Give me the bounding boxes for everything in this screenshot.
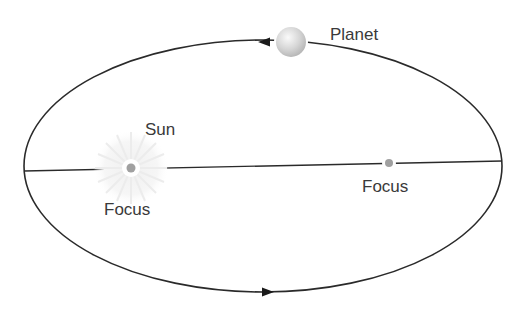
orbit-diagram: Planet Sun Focus Focus — [0, 0, 528, 312]
arrow-left-icon — [258, 38, 270, 47]
sun-focus-dot — [127, 164, 136, 173]
sun-focus-label: Focus — [104, 200, 150, 219]
empty-focus-label: Focus — [362, 177, 408, 196]
planet-icon — [276, 27, 306, 57]
planet-label: Planet — [330, 25, 378, 44]
arrow-right-icon — [262, 288, 274, 297]
sun-label: Sun — [145, 120, 175, 139]
empty-focus-dot — [385, 159, 393, 167]
